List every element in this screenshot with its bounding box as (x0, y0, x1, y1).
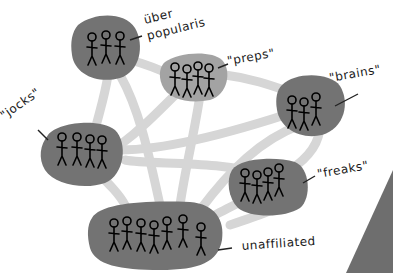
group-network-diagram: über popularis "preps" "brains" "jocks" … (0, 0, 393, 273)
label-preps: "preps" (226, 46, 276, 68)
group-preps[interactable]: "preps" (160, 46, 276, 102)
label-jocks: "jocks" (0, 85, 43, 122)
label-brains: "brains" (328, 62, 382, 85)
label-freaks: "freaks" (316, 158, 370, 181)
group-freaks[interactable]: "freaks" (229, 158, 370, 215)
corner-shape (346, 170, 393, 273)
group-brains[interactable]: "brains" (276, 62, 382, 136)
label-unaffiliated: unaffiliated (241, 234, 316, 253)
